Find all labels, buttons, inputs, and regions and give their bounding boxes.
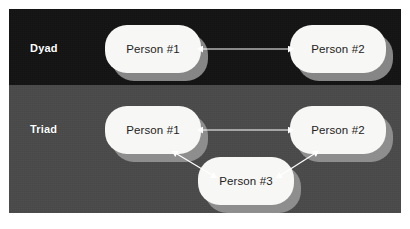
node-label: Person #3	[219, 175, 272, 187]
node-box: Person #2	[290, 106, 386, 154]
node-box: Person #1	[105, 25, 201, 73]
node-dyad-person-2: Person #2	[290, 25, 386, 73]
node-box: Person #1	[105, 106, 201, 154]
node-box: Person #3	[198, 157, 294, 205]
diagram-panel: Dyad Triad Person #1 Person #2 Person #1	[9, 9, 401, 213]
node-label: Person #1	[126, 43, 179, 55]
node-triad-person-3: Person #3	[198, 157, 294, 205]
node-dyad-person-1: Person #1	[105, 25, 201, 73]
node-label: Person #2	[311, 43, 364, 55]
diagram-figure: Dyad Triad Person #1 Person #2 Person #1	[0, 0, 410, 229]
node-triad-person-1: Person #1	[105, 106, 201, 154]
node-label: Person #1	[126, 124, 179, 136]
node-triad-person-2: Person #2	[290, 106, 386, 154]
node-box: Person #2	[290, 25, 386, 73]
row-label-triad: Triad	[30, 123, 57, 135]
row-label-dyad: Dyad	[30, 42, 58, 54]
node-label: Person #2	[311, 124, 364, 136]
